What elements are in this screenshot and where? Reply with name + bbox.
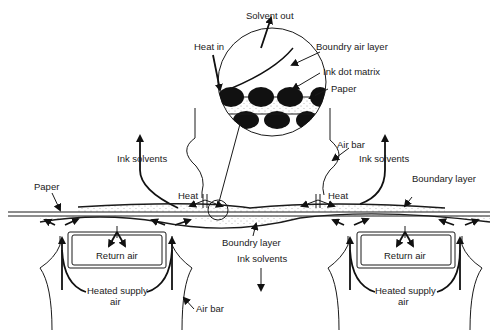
- magnified-inset: [213, 18, 330, 202]
- boundary-layer-label: Boundary layer: [412, 173, 476, 184]
- air-bar-dryer-diagram: Solvent out Heat in Boundry air layer In…: [0, 0, 497, 330]
- ink-dot-matrix-label: Ink dot matrix: [323, 66, 380, 77]
- solvent-out-label: Solvent out: [246, 10, 294, 21]
- inset-paper-label: Paper: [331, 83, 356, 94]
- top-air-bar: [187, 108, 339, 198]
- return-air-left-label: Return air: [96, 250, 138, 261]
- heated-supply-left-label-1: Heated supply: [87, 285, 148, 296]
- heat-right-label: Heat: [328, 190, 348, 201]
- return-air-right-label: Return air: [384, 250, 426, 261]
- bottom-air-bar-right: [328, 219, 482, 330]
- boundry-layer-bottom-label: Boundry layer: [222, 237, 281, 248]
- ink-solvents-left-label: Ink solvents: [117, 153, 167, 164]
- heated-supply-right-label-1: Heated supply: [375, 285, 436, 296]
- air-bar-bottom-label: Air bar: [196, 303, 224, 314]
- heated-supply-right-label-2: air: [398, 296, 409, 307]
- paper-web: [8, 200, 490, 228]
- boundary-air-layer-label: Boundry air layer: [316, 41, 388, 52]
- paper-label: Paper: [34, 181, 59, 192]
- air-bar-top-label: Air bar: [337, 139, 365, 150]
- heat-left-label: Heat: [178, 190, 198, 201]
- heated-supply-left-label-2: air: [110, 296, 121, 307]
- ink-solvents-right-label: Ink solvents: [359, 153, 409, 164]
- ink-solvents-bottom-label: Ink solvents: [237, 253, 287, 264]
- heat-in-label: Heat in: [194, 41, 224, 52]
- bottom-air-bar-left: [40, 219, 192, 330]
